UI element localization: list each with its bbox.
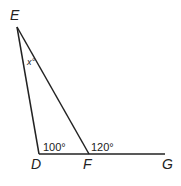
triangle-diagram: E D F G 100° 120° x° <box>0 0 181 186</box>
angle-EDF: 100° <box>43 141 66 153</box>
angle-DEF: x° <box>26 57 36 67</box>
label-D: D <box>31 156 41 172</box>
label-E: E <box>10 7 20 23</box>
label-F: F <box>83 156 93 172</box>
angle-EFG: 120° <box>91 141 114 153</box>
label-G: G <box>162 156 173 172</box>
